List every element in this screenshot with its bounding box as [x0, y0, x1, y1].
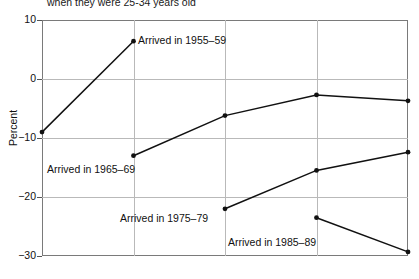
data-point	[131, 153, 136, 158]
series-label-0: Arrived in 1955–59	[138, 34, 226, 46]
series-label-2: Arrived in 1975–79	[120, 212, 208, 224]
data-point	[314, 168, 319, 173]
chart-figure: when they were 25-34 years old Percent 1…	[0, 0, 419, 279]
data-point	[314, 215, 319, 220]
series-line-1	[134, 95, 409, 156]
series-label-1: Arrived in 1965–69	[47, 163, 135, 175]
data-point	[223, 113, 228, 118]
data-point	[314, 93, 319, 98]
data-point	[40, 130, 45, 135]
series-line-2	[225, 152, 408, 209]
series-line-3	[317, 218, 409, 252]
data-point	[406, 250, 411, 255]
data-point	[406, 98, 411, 103]
series-line-0	[42, 41, 134, 132]
data-point	[131, 39, 136, 44]
series-label-3: Arrived in 1985–89	[228, 236, 316, 248]
data-point	[223, 206, 228, 211]
data-point	[406, 150, 411, 155]
